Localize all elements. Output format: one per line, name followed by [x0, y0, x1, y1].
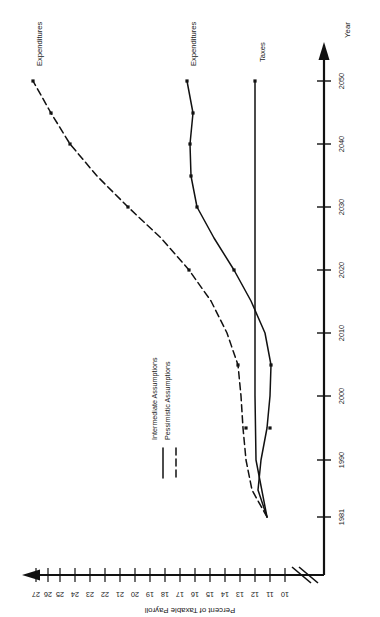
- y-tick-label-23: 23: [86, 590, 94, 599]
- y-tick-label-21: 21: [116, 590, 124, 599]
- y-tick-label-22: 22: [101, 590, 109, 599]
- y-axis-title: Percent of Taxable Payroll: [145, 606, 236, 615]
- x-axis-arrowhead: [319, 42, 330, 60]
- y-tick-label-25: 25: [56, 590, 64, 599]
- y-tick-label-12: 12: [251, 590, 259, 599]
- y-tick-label-16: 16: [191, 590, 199, 599]
- legend: Intermediate Assumptions Pessimistic Ass…: [150, 357, 176, 478]
- y-tick-label-17: 17: [176, 590, 184, 599]
- series-expenditures-intermediate-line: [187, 81, 271, 517]
- x-tick-label-2030: 2030: [337, 199, 346, 215]
- y-axis-percent: 10 11 12 13 14 15 16 17 18 19 20 21 22 2…: [22, 567, 324, 615]
- x-tick-label-2040: 2040: [337, 136, 346, 152]
- x-tick-label-1990: 1990: [337, 452, 346, 468]
- y-axis-arrowhead: [22, 570, 40, 581]
- series-expenditures-intermediate-label: Expenditures: [189, 21, 198, 66]
- series-expenditures-intermediate: Expenditures: [185, 21, 272, 517]
- y-tick-label-18: 18: [161, 590, 169, 599]
- legend-label-intermediate: Intermediate Assumptions: [150, 357, 159, 440]
- x-tick-label-1981: 1981: [337, 509, 346, 525]
- x-axis-year: 1981 1990 2000 2010 2020 2030 2040 2050 …: [317, 22, 352, 575]
- y-tick-label-20: 20: [131, 590, 139, 599]
- series-taxes-endpoint: [253, 79, 256, 82]
- series-expenditures-pessimistic-label: Expenditures: [35, 21, 44, 66]
- series-point-marker: [126, 205, 129, 208]
- x-tick-label-2050: 2050: [337, 73, 346, 89]
- series-point-marker: [188, 142, 191, 145]
- legend-label-pessimistic: Pessimistic Assumptions: [163, 361, 172, 440]
- series-expenditures-pessimistic: Expenditures: [31, 21, 267, 517]
- chart-canvas: 1981 1990 2000 2010 2020 2030 2040 2050 …: [0, 0, 380, 617]
- series-point-marker: [195, 205, 198, 208]
- chart-svg: 1981 1990 2000 2010 2020 2030 2040 2050 …: [0, 0, 380, 617]
- x-tick-label-2000: 2000: [337, 388, 346, 404]
- series-point-marker: [187, 268, 190, 271]
- series-point-marker: [49, 111, 52, 114]
- series-point-marker: [268, 426, 271, 429]
- series-expenditures-pessimistic-line: [33, 81, 267, 517]
- series-point-marker: [189, 174, 192, 177]
- y-tick-label-27: 27: [32, 590, 40, 599]
- y-tick-label-26: 26: [44, 590, 52, 599]
- y-tick-label-11: 11: [266, 590, 274, 599]
- series-taxes-line: [255, 81, 267, 517]
- series-expenditures-pessimistic-endpoint: [31, 79, 34, 82]
- series-point-marker: [232, 268, 235, 271]
- series-point-marker: [68, 142, 71, 145]
- y-tick-label-24: 24: [71, 590, 79, 599]
- y-tick-label-13: 13: [236, 590, 244, 599]
- x-tick-label-2010: 2010: [337, 325, 346, 341]
- x-tick-label-2020: 2020: [337, 262, 346, 278]
- y-tick-label-14: 14: [221, 590, 229, 599]
- series-taxes-label: Taxes: [258, 42, 267, 62]
- series-point-marker: [269, 363, 272, 366]
- y-tick-label-15: 15: [206, 590, 214, 599]
- y-tick-label-10: 10: [281, 590, 289, 599]
- series-point-marker: [244, 426, 247, 429]
- series-point-marker: [236, 363, 239, 366]
- y-tick-label-19: 19: [146, 590, 154, 599]
- series-expenditures-intermediate-endpoint: [185, 79, 188, 82]
- series-point-marker: [191, 111, 194, 114]
- series-taxes: Taxes: [253, 42, 267, 517]
- x-axis-title: Year: [343, 22, 352, 38]
